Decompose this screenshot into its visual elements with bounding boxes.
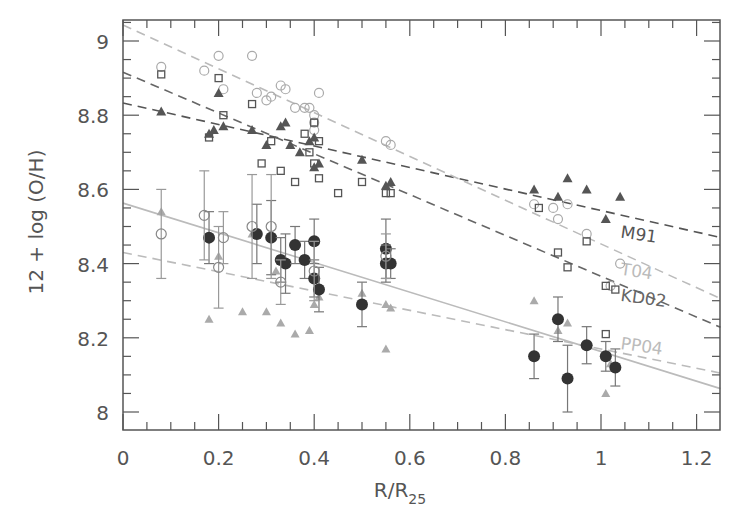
x-tick-label: 0.8	[489, 446, 521, 470]
point-marker	[301, 130, 308, 137]
point-marker	[386, 177, 396, 186]
fit-lines: M91T04KD02PP04	[123, 25, 721, 389]
point-marker	[271, 267, 280, 275]
point-marker	[214, 88, 224, 97]
point-marker	[359, 178, 366, 185]
point-marker	[214, 51, 223, 60]
axis-ticks: 00.20.40.60.811.288.28.48.68.89	[77, 20, 720, 470]
point-marker	[563, 318, 572, 326]
point-marker	[602, 331, 609, 338]
series-te-direct	[203, 201, 621, 412]
point-marker	[552, 313, 564, 325]
y-tick-label: 8.4	[77, 253, 109, 277]
point-marker	[157, 62, 166, 71]
x-tick-label: 0.4	[298, 446, 330, 470]
point-marker	[581, 339, 593, 351]
point-marker	[582, 184, 592, 193]
point-marker	[289, 239, 301, 251]
y-tick-label: 8	[96, 401, 109, 425]
y-tick-label: 9	[96, 30, 109, 54]
point-marker	[582, 229, 591, 238]
data-points	[156, 51, 625, 412]
x-tick-label: 0.6	[394, 446, 426, 470]
series-kd02	[158, 71, 619, 338]
point-marker	[262, 307, 271, 315]
point-marker	[530, 296, 539, 304]
point-marker	[564, 264, 571, 271]
x-tick-label: 0	[117, 446, 130, 470]
y-tick-label: 8.8	[77, 104, 109, 128]
point-marker	[609, 361, 621, 373]
plot-canvas: M91T04KD02PP04 00.20.40.60.811.288.28.48…	[0, 0, 749, 526]
point-marker	[215, 75, 222, 82]
point-marker	[277, 167, 284, 174]
point-marker	[249, 101, 256, 108]
point-marker	[553, 192, 563, 201]
point-marker	[615, 192, 625, 201]
point-marker	[305, 326, 314, 334]
point-marker	[600, 350, 612, 362]
y-tick-label: 8.6	[77, 178, 109, 202]
series-m91	[156, 88, 625, 223]
point-marker	[200, 66, 209, 75]
y-tick-label: 8.2	[77, 327, 109, 351]
point-marker	[238, 307, 247, 315]
point-marker	[563, 173, 573, 182]
point-marker	[268, 138, 275, 145]
point-marker	[601, 389, 610, 397]
x-axis-label: R/R25	[374, 478, 426, 507]
point-marker	[528, 350, 540, 362]
point-marker	[529, 184, 539, 193]
point-marker	[281, 118, 291, 127]
point-marker	[563, 200, 572, 209]
point-marker	[248, 51, 257, 60]
fit-line-t04	[123, 25, 721, 299]
point-marker	[381, 344, 390, 352]
point-marker	[382, 190, 389, 197]
point-marker	[562, 373, 574, 385]
point-marker	[314, 88, 323, 97]
point-marker	[291, 103, 300, 112]
fit-label-kd02: KD02	[620, 285, 668, 311]
point-marker	[299, 254, 311, 266]
x-tick-label: 1.2	[681, 446, 713, 470]
point-marker	[209, 125, 219, 134]
y-axis-label: 12 + log (O/H)	[24, 150, 48, 295]
point-marker	[549, 203, 558, 212]
point-marker	[252, 88, 261, 97]
point-marker	[292, 178, 299, 185]
point-marker	[387, 190, 394, 197]
point-marker	[553, 215, 562, 224]
point-marker	[309, 132, 319, 141]
point-marker	[356, 298, 368, 310]
point-marker	[315, 175, 322, 182]
fit-label-m91: M91	[620, 222, 659, 247]
fit-line-m91	[123, 103, 721, 237]
fit-label-pp04: PP04	[620, 333, 665, 359]
point-marker	[554, 249, 561, 256]
point-marker	[291, 330, 300, 338]
point-marker	[335, 190, 342, 197]
x-tick-label: 1	[595, 446, 608, 470]
point-marker	[258, 160, 265, 167]
point-marker	[205, 315, 214, 323]
point-marker	[276, 318, 285, 326]
abundance-gradient-chart: M91T04KD02PP04 00.20.40.60.811.288.28.48…	[0, 0, 749, 526]
point-marker	[601, 214, 611, 223]
x-tick-label: 0.2	[203, 446, 235, 470]
